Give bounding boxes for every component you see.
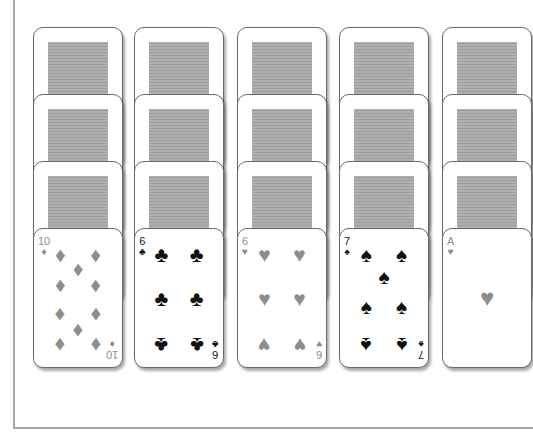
club-icon: ♣ xyxy=(212,339,219,349)
card-back-pattern xyxy=(457,176,517,232)
top-left-index: 6♥ xyxy=(242,236,248,257)
spade-pip-icon: ♠ xyxy=(378,265,389,286)
card-back-pattern xyxy=(252,42,312,98)
top-left-index: A♥ xyxy=(447,236,454,257)
diamond-pip-icon: ♦ xyxy=(73,321,84,342)
diamond-pip-icon: ♦ xyxy=(55,274,66,295)
spade-pip-icon: ♠ xyxy=(396,334,407,355)
diamond-pip-icon: ♦ xyxy=(55,304,66,325)
card-back-pattern xyxy=(48,109,108,165)
card-7-of-spades[interactable]: 7♠7♠♠♠♠♠♠♠♠ xyxy=(339,228,429,368)
club-icon: ♣ xyxy=(139,247,146,257)
card-rank: 6 xyxy=(316,349,322,360)
top-left-index: 7♠ xyxy=(344,236,350,257)
card-back-pattern xyxy=(149,109,209,165)
card-back-pattern xyxy=(354,176,414,232)
diamond-pip-icon: ♦ xyxy=(90,274,101,295)
club-pip-icon: ♣ xyxy=(155,288,169,309)
spade-pip-icon: ♠ xyxy=(396,243,407,264)
card-10-of-diamonds[interactable]: 10♦10♦♦♦♦♦♦♦♦♦♦♦ xyxy=(33,228,123,368)
card-6-of-clubs[interactable]: 6♣6♣♣♣♣♣♣♣ xyxy=(134,228,224,368)
heart-pip-icon: ♥ xyxy=(258,243,270,264)
spade-pip-icon: ♠ xyxy=(361,243,372,264)
bottom-right-index: 7♠ xyxy=(418,339,424,360)
diamond-icon: ♦ xyxy=(109,339,114,349)
card-back-pattern xyxy=(149,176,209,232)
diamond-pip-icon: ♦ xyxy=(90,243,101,264)
card-rank: 6 xyxy=(213,349,219,360)
top-left-index: 6♣ xyxy=(139,236,146,257)
diamond-pip-icon: ♦ xyxy=(90,304,101,325)
club-pip-icon: ♣ xyxy=(190,243,204,264)
heart-icon: ♥ xyxy=(316,339,322,349)
card-back-pattern xyxy=(149,42,209,98)
club-pip-icon: ♣ xyxy=(190,288,204,309)
diamond-pip-icon: ♦ xyxy=(55,243,66,264)
heart-pip-icon: ♥ xyxy=(293,334,305,355)
heart-pip-icon: ♥ xyxy=(293,288,305,309)
heart-pip-icon: ♥ xyxy=(293,243,305,264)
spade-pip-icon: ♠ xyxy=(361,296,372,317)
top-left-index: 10♦ xyxy=(38,236,50,257)
bottom-right-index: 6♥ xyxy=(316,339,322,360)
club-pip-icon: ♣ xyxy=(190,334,204,355)
card-back-pattern xyxy=(354,42,414,98)
card-back-pattern xyxy=(457,109,517,165)
club-pip-icon: ♣ xyxy=(155,334,169,355)
heart-pip-icon: ♥ xyxy=(480,286,494,310)
spade-icon: ♠ xyxy=(344,247,349,257)
spade-icon: ♠ xyxy=(418,339,423,349)
diamond-pip-icon: ♦ xyxy=(55,334,66,355)
club-pip-icon: ♣ xyxy=(155,243,169,264)
card-back-pattern xyxy=(457,42,517,98)
diamond-pip-icon: ♦ xyxy=(90,334,101,355)
card-back-pattern xyxy=(48,42,108,98)
diamond-icon: ♦ xyxy=(42,247,47,257)
spade-pip-icon: ♠ xyxy=(396,296,407,317)
card-back-pattern xyxy=(252,109,312,165)
card-back-pattern xyxy=(252,176,312,232)
card-rank: 7 xyxy=(418,349,424,360)
bottom-right-index: 6♣ xyxy=(212,339,219,360)
diamond-pip-icon: ♦ xyxy=(73,257,84,278)
card-back-pattern xyxy=(48,176,108,232)
spade-pip-icon: ♠ xyxy=(361,334,372,355)
card-back-pattern xyxy=(354,109,414,165)
heart-icon: ♥ xyxy=(242,247,248,257)
bottom-right-index: 10♦ xyxy=(106,339,118,360)
heart-icon: ♥ xyxy=(448,247,454,257)
card-A-of-hearts[interactable]: A♥♥ xyxy=(442,228,532,368)
heart-pip-icon: ♥ xyxy=(258,288,270,309)
card-rank: 10 xyxy=(106,349,118,360)
card-6-of-hearts[interactable]: 6♥6♥♥♥♥♥♥♥ xyxy=(237,228,327,368)
heart-pip-icon: ♥ xyxy=(258,334,270,355)
